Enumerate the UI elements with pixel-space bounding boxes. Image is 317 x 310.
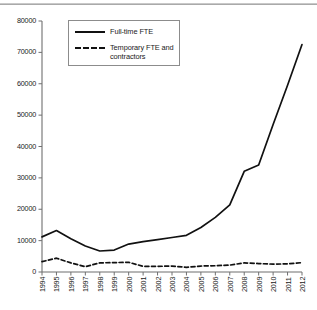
x-tick-label: 2003 [168,277,177,303]
y-tick-label: 10000 [2,237,36,245]
x-tick-label: 1995 [52,277,61,303]
x-tick-label: 1997 [81,277,90,303]
legend-dashed-line-icon [75,43,105,52]
y-tick-label: 0 [2,268,36,276]
y-tick-label: 60000 [2,80,36,88]
legend-label: Temporary FTE and contractors [110,43,174,62]
series-line-full-time-fte [42,45,302,251]
x-tick-label: 2001 [139,277,148,303]
x-tick-label: 1996 [67,277,76,303]
x-tick-label: 2007 [226,277,235,303]
x-tick-label: 2000 [125,277,134,303]
x-tick-label: 2010 [269,277,278,303]
x-tick-label: 1994 [38,277,47,303]
x-tick-label: 2009 [255,277,264,303]
chart-figure: 0100002000030000400005000060000700008000… [0,0,317,310]
x-tick-label: 1999 [110,277,119,303]
legend-item-temporary-fte-contractors: Temporary FTE and contractors [75,43,174,62]
legend-item-full-time-fte: Full-time FTE [75,27,153,36]
x-tick-label: 2002 [154,277,163,303]
y-tick-label: 30000 [2,174,36,182]
series-layer [42,45,302,268]
y-tick-label: 50000 [2,111,36,119]
legend-label: Full-time FTE [110,27,153,36]
x-tick-label: 2011 [284,277,293,303]
series-line-temporary-fte-contractors [42,258,302,267]
x-tick-label: 2005 [197,277,206,303]
x-tick-label: 2008 [240,277,249,303]
chart-legend: Full-time FTE Temporary FTE and contract… [68,20,180,66]
y-tick-label: 80000 [2,17,36,25]
x-tick-label: 1998 [96,277,105,303]
y-tick-label: 40000 [2,143,36,151]
x-tick-label: 2006 [211,277,220,303]
y-tick-label: 20000 [2,205,36,213]
x-tick-label: 2004 [182,277,191,303]
x-tick-label: 2012 [298,277,307,303]
y-tick-label: 70000 [2,48,36,56]
legend-solid-line-icon [75,27,105,36]
